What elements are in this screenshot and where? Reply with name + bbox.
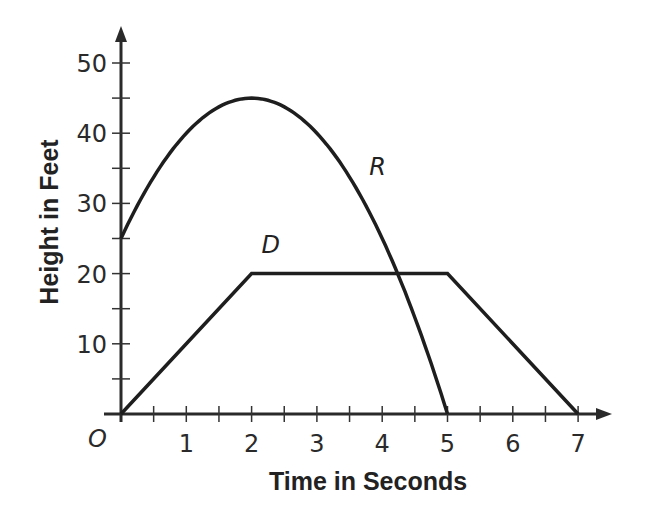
x-axis-title: Time in Seconds bbox=[269, 467, 467, 495]
series-r-label: R bbox=[369, 153, 386, 181]
series-d-label: D bbox=[261, 231, 279, 259]
x-tick-label: 1 bbox=[179, 430, 194, 458]
y-tick-label: 20 bbox=[76, 261, 107, 289]
y-tick-label: 30 bbox=[76, 190, 107, 218]
x-axis-arrow-icon bbox=[596, 408, 612, 420]
y-axis: 1020304050 bbox=[76, 26, 130, 422]
x-tick-label: 7 bbox=[570, 430, 585, 458]
x-tick-label: 3 bbox=[309, 430, 324, 458]
x-tick-label: 2 bbox=[244, 430, 259, 458]
x-tick-label: 5 bbox=[440, 430, 455, 458]
x-tick-label: 4 bbox=[375, 430, 390, 458]
y-axis-title: Height in Feet bbox=[35, 139, 63, 305]
x-axis: 1234567 bbox=[104, 406, 612, 458]
x-tick-label: 6 bbox=[505, 430, 520, 458]
y-axis-arrow-icon bbox=[115, 26, 127, 42]
height-time-chart: 1020304050 1234567 O Height in Feet Time… bbox=[0, 0, 645, 519]
y-tick-label: 40 bbox=[76, 120, 107, 148]
series-d-line bbox=[121, 274, 578, 414]
origin-label: O bbox=[88, 425, 107, 453]
series-r-curve bbox=[121, 98, 448, 414]
y-tick-label: 50 bbox=[76, 50, 107, 78]
y-tick-label: 10 bbox=[76, 331, 107, 359]
